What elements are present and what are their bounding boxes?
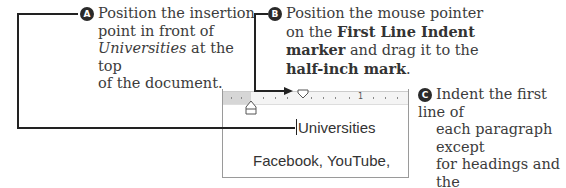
callout-a-text-1: Position the insertion [98,5,255,21]
half-inch-label: half-inch mark [286,60,406,77]
ruler-tick [241,97,242,99]
callout-c: CIndent the first line of each paragraph… [418,86,566,188]
badge-b: B [268,7,282,21]
ruler-tick [275,97,276,99]
callout-c-text-3: for headings and the [418,156,566,188]
ruler-tick [311,97,312,99]
callout-b-text-4: half-inch mark. [268,60,508,79]
insertion-point-cursor [296,119,297,135]
badge-c: C [418,88,432,102]
callout-b-text-4b: . [406,61,411,77]
italic-universities: Universities [98,40,186,56]
ruler-tick [231,97,232,99]
first-line-indent-marker-icon[interactable] [297,89,309,101]
marker-label: marker [286,41,345,58]
leader-line-b-horizontal [254,90,286,92]
ruler-tick [385,97,386,99]
callout-b: BPosition the mouse pointer on the First… [268,5,508,78]
first-line-indent-label: First Line Indent [337,23,475,40]
hanging-indent-marker-icon[interactable] [245,99,257,115]
leader-line-b-top [254,13,268,15]
leader-line-b-vertical [254,13,256,91]
doc-text-line[interactable]: Facebook, YouTube, [253,152,390,169]
leader-line-a-top [17,13,78,15]
ruler-tick [263,97,264,99]
ruler-tick [287,97,288,99]
callout-b-text-2: on the First Line Indent [268,23,508,42]
ruler-number: 1 [358,92,363,101]
callout-b-text-3: marker and drag it to the [268,41,508,60]
callout-a-text-3: Universities at the top [80,40,255,75]
ruler-tick [335,97,336,99]
leader-line-a-vertical [17,13,19,128]
callout-a: APosition the insertion point in front o… [80,5,255,93]
callout-b-text-2a: on the [286,24,337,40]
leader-line-a-bottom [17,127,295,129]
ruler-tick [349,97,350,99]
doc-heading-universities[interactable]: Universities [298,119,376,136]
callout-c-text-1: Indent the first line of [418,86,547,120]
callout-b-text-3b: and drag it to the [345,42,478,58]
callout-c-text-2: each paragraph except [418,121,566,156]
callout-b-text-1: Position the mouse pointer [286,5,483,21]
badge-a: A [80,7,94,21]
ruler-tick [323,97,324,99]
ruler-tick [373,97,374,99]
word-screenshot: 1 Universities Facebook, YouTube, [222,89,409,178]
arrowhead-icon [284,86,294,96]
ruler-tick [397,97,398,99]
callout-a-text-2: point in front of [80,23,255,41]
